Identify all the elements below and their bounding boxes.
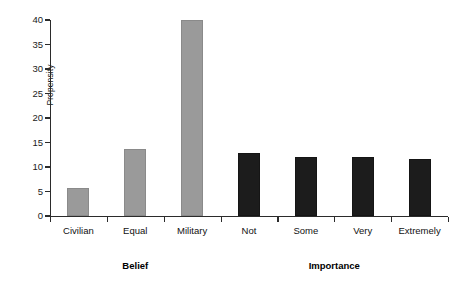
x-axis-tick: [334, 217, 335, 222]
group-label-importance: Importance: [221, 260, 448, 271]
y-axis-tick-label-text: 10: [17, 162, 43, 172]
y-axis-tick-label: 20: [12, 113, 43, 123]
bar-extremely: [409, 159, 431, 216]
y-axis-tick-label: 15: [12, 138, 43, 148]
x-axis-tick: [164, 217, 165, 222]
bar-civilian: [67, 188, 89, 216]
x-axis-label-civilian: Civilian: [50, 225, 107, 236]
x-axis-tick: [221, 217, 222, 222]
x-axis-line: [50, 216, 448, 217]
bar-military: [181, 20, 203, 216]
plot-area: [50, 20, 448, 216]
bar-not: [238, 153, 260, 216]
x-axis-label-very: Very: [334, 225, 391, 236]
y-axis-tick-label-text: 5: [17, 187, 43, 197]
y-axis-tick-label-text: 35: [17, 40, 43, 50]
x-axis-tick: [277, 217, 278, 222]
y-axis-tick-label: 0: [12, 211, 43, 221]
y-axis-tick-label-text: 0: [17, 211, 43, 221]
y-axis-tick-label-text: 20: [17, 113, 43, 123]
x-axis-label-extremely: Extremely: [391, 225, 448, 236]
x-axis-label-not: Not: [221, 225, 278, 236]
x-axis-tick: [107, 217, 108, 222]
chart-container: Propensity 0510152025303540 CivilianEqua…: [0, 0, 455, 286]
x-axis-label-some: Some: [277, 225, 334, 236]
y-axis-tick-label: 10: [12, 162, 43, 172]
y-axis-tick-label: 5: [12, 187, 43, 197]
y-axis-tick-label-text: 40: [17, 15, 43, 25]
y-axis-tick-label: 40: [12, 15, 43, 25]
y-axis-tick-label-text: 15: [17, 138, 43, 148]
bar-very: [352, 157, 374, 216]
x-axis-label-military: Military: [164, 225, 221, 236]
y-axis-tick-label: 25: [12, 89, 43, 99]
y-axis-tick-label-text: 25: [17, 89, 43, 99]
y-axis-tick-label: 35: [12, 40, 43, 50]
bar-some: [295, 157, 317, 216]
x-axis-tick: [448, 217, 449, 222]
x-axis-tick: [391, 217, 392, 222]
x-axis-tick: [50, 217, 51, 222]
group-label-belief: Belief: [50, 260, 221, 271]
y-axis-tick-label-text: 30: [17, 64, 43, 74]
y-axis-tick-label: 30: [12, 64, 43, 74]
bar-equal: [124, 149, 146, 216]
x-axis-label-equal: Equal: [107, 225, 164, 236]
